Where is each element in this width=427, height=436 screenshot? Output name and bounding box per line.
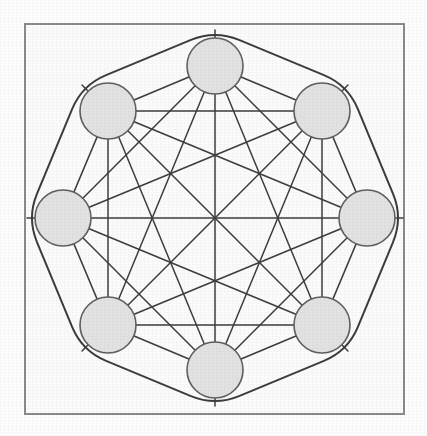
graph-node-n7[interactable] (80, 83, 136, 139)
graph-node-n1[interactable] (294, 83, 350, 139)
graph-node-n3[interactable] (294, 297, 350, 353)
graph-node-n6[interactable] (35, 190, 91, 246)
graph-node-n5[interactable] (80, 297, 136, 353)
graph-node-n4[interactable] (187, 342, 243, 398)
graph-node-n2[interactable] (339, 190, 395, 246)
graph-node-n0[interactable] (187, 38, 243, 94)
network-diagram (0, 0, 427, 436)
figure-canvas (0, 0, 427, 436)
